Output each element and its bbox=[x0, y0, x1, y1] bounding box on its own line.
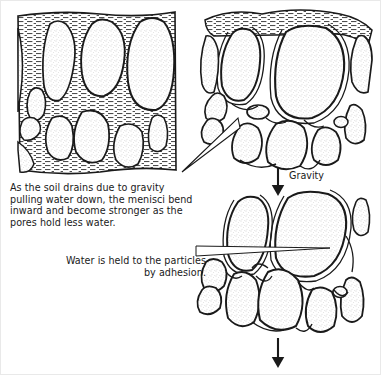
soil-particle bbox=[258, 269, 302, 330]
soil-particle bbox=[247, 105, 269, 119]
soil-particle bbox=[312, 127, 341, 165]
saturated-soil-panel bbox=[18, 12, 176, 174]
soil-particle bbox=[341, 277, 364, 322]
soil-particle bbox=[114, 124, 144, 167]
soil-particle bbox=[46, 116, 74, 160]
draining-soil-panel bbox=[201, 10, 372, 169]
water-film bbox=[346, 236, 353, 272]
soil-water-diagram: As the soil drains due to gravity pullin… bbox=[0, 0, 382, 376]
soil-particle bbox=[226, 272, 260, 326]
soil-particle bbox=[275, 192, 346, 277]
soil-particle bbox=[334, 117, 348, 128]
soil-particle bbox=[227, 197, 268, 271]
soil-particle bbox=[306, 287, 337, 332]
soil-particle bbox=[74, 111, 109, 163]
soil-particle bbox=[148, 115, 167, 152]
soil-particle bbox=[275, 26, 344, 119]
soil-particle bbox=[205, 93, 227, 122]
soil-particle bbox=[351, 36, 372, 93]
soil-particle bbox=[127, 18, 174, 110]
adhesion-caption: Water is held to the particles by adhesi… bbox=[60, 255, 206, 278]
soil-particle bbox=[197, 286, 221, 314]
soil-particle bbox=[27, 88, 46, 120]
adhesion-soil-panel bbox=[197, 190, 369, 332]
gravity-label: Gravity bbox=[289, 170, 324, 181]
soil-particle bbox=[201, 36, 219, 93]
soil-particle bbox=[221, 29, 260, 101]
drainage-caption: As the soil drains due to gravity pullin… bbox=[10, 182, 200, 228]
soil-particle bbox=[266, 121, 307, 169]
soil-particle bbox=[352, 198, 369, 235]
